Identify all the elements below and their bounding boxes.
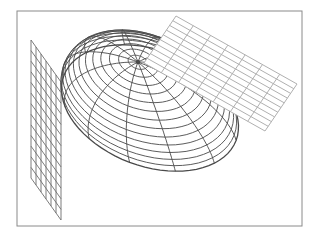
- pole-point: [136, 60, 140, 64]
- diagram-canvas: [0, 0, 316, 238]
- left-projection-plane: [31, 40, 61, 220]
- ellipsoid-projection-diagram: [0, 0, 316, 238]
